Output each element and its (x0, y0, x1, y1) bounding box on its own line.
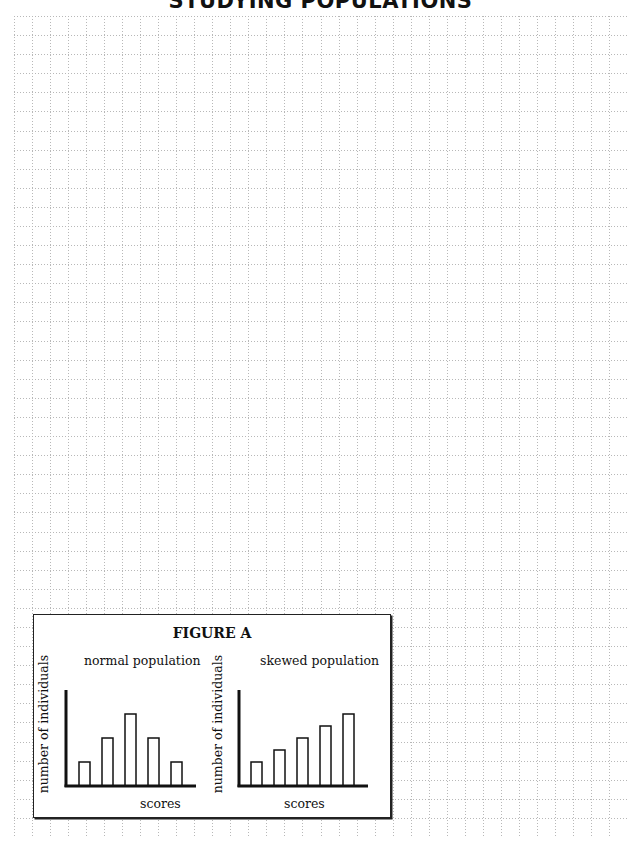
page-title: STUDYING POPULATIONS (0, 0, 641, 12)
histogram-bar-normal (148, 738, 159, 786)
histogram-bar-skewed (297, 738, 308, 786)
histogram-bar-normal (171, 762, 182, 786)
histogram-bar-normal (79, 762, 90, 786)
figure-a-box: FIGURE A normal population number of ind… (33, 614, 391, 818)
histogram-bar-skewed (343, 714, 354, 786)
histogram-bar-skewed (251, 762, 262, 786)
histogram-bar-skewed (274, 750, 285, 786)
histogram-bar-normal (125, 714, 136, 786)
histogram-bar-normal (102, 738, 113, 786)
histogram-charts (34, 615, 390, 817)
histogram-bar-skewed (320, 726, 331, 786)
